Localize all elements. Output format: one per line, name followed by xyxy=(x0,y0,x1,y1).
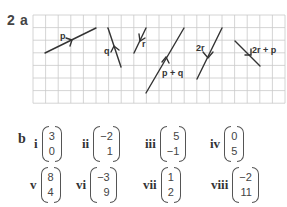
answer-vi: vi −39 xyxy=(76,167,117,203)
answer-iv: iv 05 xyxy=(210,126,244,162)
column-vector: 5−1 xyxy=(160,126,187,162)
column-vector: 30 xyxy=(42,126,62,162)
numeral: viii xyxy=(211,177,228,193)
vector-p-plus-q: p + q xyxy=(146,28,184,93)
part-b-label: b xyxy=(18,131,26,147)
svg-text:q: q xyxy=(104,46,110,56)
numeral: i xyxy=(34,136,38,152)
answer-i: i 30 xyxy=(34,126,62,162)
column-vector: 84 xyxy=(41,167,61,203)
vector-q: q xyxy=(104,28,121,67)
numeral: ii xyxy=(82,136,89,152)
numeral: vi xyxy=(76,177,86,193)
numeral: iv xyxy=(210,136,220,152)
answer-v: v 84 xyxy=(30,167,61,203)
svg-text:p: p xyxy=(60,31,66,41)
vector-grid: p q r p + q 2r 2r + p xyxy=(0,0,287,110)
column-vector: −211 xyxy=(232,167,259,203)
column-vector: 05 xyxy=(224,126,244,162)
svg-text:r: r xyxy=(142,39,146,49)
column-vector: 12 xyxy=(161,167,181,203)
answer-ii: ii −21 xyxy=(82,126,120,162)
answer-iii: iii 5−1 xyxy=(145,126,186,162)
numeral: vii xyxy=(143,177,157,193)
column-vector: −39 xyxy=(90,167,117,203)
answer-viii: viii −211 xyxy=(211,167,259,203)
answer-vii: vii 12 xyxy=(143,167,181,203)
column-vector: −21 xyxy=(93,126,120,162)
svg-text:p + q: p + q xyxy=(162,68,183,78)
numeral: iii xyxy=(145,136,156,152)
vector-2r-plus-p: 2r + p xyxy=(235,41,277,66)
numeral: v xyxy=(30,177,37,193)
svg-text:2r + p: 2r + p xyxy=(252,45,277,55)
svg-text:2r: 2r xyxy=(196,43,205,53)
